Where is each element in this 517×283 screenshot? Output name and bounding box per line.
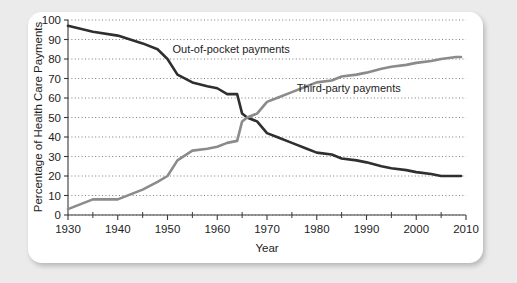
y-ticklabel-80: 80 [48, 53, 61, 65]
x-ticklabel-group: 193019401950196019701980199020002010 [55, 223, 479, 235]
chart-card: 0102030405060708090100 19301940195019601… [28, 12, 483, 263]
series-annotation-0: Out-of-pocket payments [172, 43, 290, 55]
y-ticklabel-60: 60 [48, 92, 61, 104]
y-axis-title: Percentage of Health Care Payments [32, 22, 44, 213]
series-annotation-1: Third-party payments [297, 82, 401, 94]
y-ticklabel-10: 10 [48, 190, 61, 202]
x-ticklabel-1970: 1970 [254, 223, 280, 235]
y-ticklabel-50: 50 [48, 112, 61, 124]
x-tick-group [68, 212, 466, 220]
x-ticklabel-1930: 1930 [55, 223, 81, 235]
y-ticklabel-group: 0102030405060708090100 [42, 14, 61, 221]
x-ticklabel-1990: 1990 [354, 223, 380, 235]
y-ticklabel-30: 30 [48, 151, 61, 163]
y-ticklabel-20: 20 [48, 170, 61, 182]
y-ticklabel-70: 70 [48, 73, 61, 85]
x-ticklabel-1980: 1980 [304, 223, 330, 235]
x-axis-title: Year [255, 242, 278, 254]
x-ticklabel-2000: 2000 [403, 223, 429, 235]
y-ticklabel-40: 40 [48, 131, 61, 143]
x-ticklabel-1940: 1940 [105, 223, 131, 235]
series-line-1 [68, 57, 461, 209]
x-ticklabel-1950: 1950 [155, 223, 181, 235]
y-ticklabel-0: 0 [55, 209, 61, 221]
y-ticklabel-90: 90 [48, 34, 61, 46]
chart-svg: 0102030405060708090100 19301940195019601… [28, 12, 483, 263]
page-root: 0102030405060708090100 19301940195019601… [0, 0, 517, 283]
y-ticklabel-100: 100 [42, 14, 61, 26]
line-chart-figure: 0102030405060708090100 19301940195019601… [28, 12, 483, 263]
y-tick-group [64, 20, 68, 215]
x-ticklabel-2010: 2010 [453, 223, 479, 235]
x-ticklabel-1960: 1960 [204, 223, 230, 235]
